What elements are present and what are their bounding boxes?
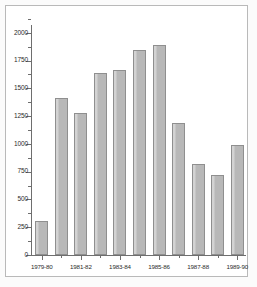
bar bbox=[35, 221, 48, 255]
bar bbox=[192, 164, 205, 255]
bar bbox=[94, 73, 107, 255]
x-axis-tick bbox=[100, 256, 101, 258]
x-axis-tick bbox=[218, 256, 219, 258]
x-axis-tick-label: 1989-90 bbox=[226, 263, 248, 270]
chart-screenshot: 025050075010001250150017502000 1979-8019… bbox=[0, 0, 257, 287]
x-axis-tick bbox=[140, 256, 141, 258]
bar bbox=[55, 98, 68, 255]
bar bbox=[113, 70, 126, 255]
x-axis-line bbox=[31, 255, 246, 256]
y-axis-tick-label: 1000 bbox=[0, 141, 28, 148]
y-axis-minor-tick bbox=[28, 19, 31, 20]
x-axis-tick bbox=[42, 256, 43, 260]
bar bbox=[74, 113, 87, 255]
x-axis-tick bbox=[61, 256, 62, 258]
x-axis-tick bbox=[81, 256, 82, 260]
bar bbox=[172, 123, 185, 255]
y-axis-tick-label: 0 bbox=[0, 252, 28, 259]
bar bbox=[231, 145, 244, 255]
y-axis-tick-label: 1250 bbox=[0, 113, 28, 120]
bar bbox=[211, 175, 224, 255]
y-axis-minor-tick bbox=[28, 74, 31, 75]
y-axis-minor-tick bbox=[28, 102, 31, 103]
y-axis-minor-tick bbox=[28, 47, 31, 48]
x-axis-tick-label: 1983-84 bbox=[109, 263, 131, 270]
y-axis-tick-label: 750 bbox=[0, 168, 28, 175]
x-axis-tick-label: 1987-88 bbox=[187, 263, 209, 270]
x-axis-tick bbox=[237, 256, 238, 260]
y-axis-minor-tick bbox=[28, 241, 31, 242]
x-axis-tick bbox=[179, 256, 180, 258]
x-axis-tick bbox=[159, 256, 160, 260]
y-axis-tick-label: 1750 bbox=[0, 57, 28, 64]
y-axis-line bbox=[31, 25, 32, 256]
x-axis-tick bbox=[120, 256, 121, 260]
bar bbox=[153, 45, 166, 255]
x-axis-tick bbox=[198, 256, 199, 260]
y-axis-tick-label: 1500 bbox=[0, 85, 28, 92]
y-axis-minor-tick bbox=[28, 158, 31, 159]
x-axis-tick-label: 1981-82 bbox=[70, 263, 92, 270]
bar-chart: 025050075010001250150017502000 1979-8019… bbox=[0, 0, 257, 287]
bar bbox=[133, 50, 146, 255]
y-axis-tick-label: 250 bbox=[0, 224, 28, 231]
y-axis-minor-tick bbox=[28, 213, 31, 214]
x-axis-tick-label: 1985-86 bbox=[148, 263, 170, 270]
y-axis-tick-label: 500 bbox=[0, 196, 28, 203]
x-axis-tick-label: 1979-80 bbox=[31, 263, 53, 270]
y-axis-tick-label: 2000 bbox=[0, 30, 28, 37]
y-axis-minor-tick bbox=[28, 130, 31, 131]
y-axis-minor-tick bbox=[28, 186, 31, 187]
